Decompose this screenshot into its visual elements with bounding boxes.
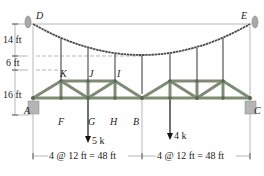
load-label-5k: 5 k [92, 135, 105, 146]
support-E-icon [252, 16, 258, 28]
label-I: I [116, 68, 121, 79]
dim-hanger-gap: 6 ft [6, 57, 20, 68]
label-B: B [133, 116, 139, 127]
label-E: E [240, 10, 247, 21]
cable-truss-diagram: D E K J I A F G H B C 14 ft 6 ft 16 ft 4… [0, 0, 264, 176]
label-G: G [88, 116, 95, 127]
label-H: H [109, 116, 118, 127]
dim-left-span: 4 @ 12 ft = 48 ft [49, 150, 116, 161]
load-label-4k: 4 k [174, 130, 187, 141]
dim-sag: 14 ft [3, 34, 22, 45]
label-C: C [254, 105, 261, 116]
label-K: K [59, 68, 68, 79]
label-F: F [57, 116, 65, 127]
label-A: A [23, 105, 31, 116]
dim-truss-height: 16 ft [3, 89, 22, 100]
dim-right-span: 4 @ 12 ft = 48 ft [157, 150, 224, 161]
label-D: D [35, 10, 44, 21]
cable [33, 24, 250, 55]
support-D-icon [25, 16, 31, 28]
label-J: J [89, 68, 94, 79]
load-arrow-4k [167, 100, 173, 140]
